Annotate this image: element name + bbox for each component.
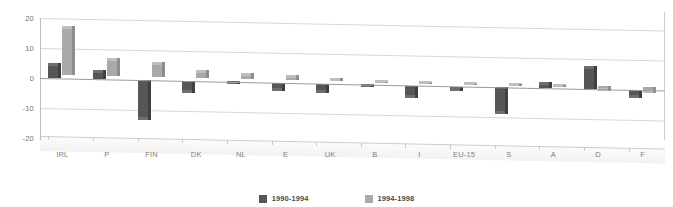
- legend-swatch-1994-1998: [365, 195, 373, 203]
- x-tick-nl: [227, 140, 228, 144]
- x-tick-eu-15: [450, 145, 451, 149]
- x-axis-label-fin: FIN: [145, 150, 158, 159]
- bar-side: [282, 83, 285, 91]
- bar-side: [505, 87, 508, 114]
- y-tick-label--20: -20: [4, 134, 34, 143]
- plot-area: 20100-10-20 IRLPFINDKNLEUKBIEU-15SADF: [0, 0, 673, 170]
- bar-p-1994-1998: [107, 58, 120, 77]
- bar-side: [474, 84, 477, 86]
- bar-i-1990-1994: [405, 86, 418, 99]
- chart-legend: 1990-19941994-1998: [0, 194, 673, 203]
- gridline--10: [40, 108, 665, 122]
- bar-i-1994-1998: [419, 83, 432, 85]
- bar-side: [415, 86, 418, 99]
- bar-side: [58, 63, 61, 78]
- bar-side: [340, 78, 343, 81]
- legend-item[interactable]: 1994-1998: [365, 194, 415, 203]
- bar-irl-1990-1994: [48, 63, 61, 78]
- x-tick-dk: [182, 139, 183, 143]
- x-tick-uk: [316, 142, 317, 146]
- bar-dk-1990-1994: [182, 81, 195, 93]
- bar-uk-1990-1994: [316, 84, 329, 94]
- bar-dk-1994-1998: [196, 70, 209, 78]
- legend-item[interactable]: 1990-1994: [259, 194, 309, 203]
- x-axis-label-irl: IRL: [56, 150, 68, 159]
- chart-floor: [40, 136, 665, 164]
- bar-side: [148, 80, 151, 120]
- bar-side: [251, 73, 254, 79]
- bar-side: [563, 85, 566, 87]
- bar-f-1990-1994: [629, 90, 642, 98]
- x-tick-b: [361, 143, 362, 147]
- bar-side: [385, 82, 388, 84]
- bar-side: [639, 90, 642, 98]
- right-axis-line: [664, 12, 665, 140]
- legend-label: 1990-1994: [272, 194, 309, 203]
- bar-side: [519, 84, 522, 86]
- x-axis-label-eu-15: EU-15: [453, 150, 475, 159]
- x-tick-i: [405, 144, 406, 148]
- bar-side: [117, 58, 120, 77]
- bar-side: [326, 84, 329, 94]
- x-tick-p: [93, 137, 94, 141]
- x-tick-f: [629, 148, 630, 152]
- bar-eu-15-1994-1998: [464, 84, 477, 86]
- x-axis-label-f: F: [640, 150, 645, 159]
- x-axis-label-i: I: [418, 150, 420, 159]
- gridline-10: [40, 48, 665, 62]
- y-tick-label-10: 10: [4, 44, 34, 53]
- bar-nl-1994-1998: [241, 73, 254, 79]
- bar-side: [103, 70, 106, 80]
- bar-fin-1990-1994: [138, 80, 151, 120]
- y-tick-label--10: -10: [4, 104, 34, 113]
- x-tick-e: [272, 141, 273, 145]
- bar-a-1994-1998: [553, 85, 566, 87]
- x-axis-label-d: D: [595, 150, 601, 159]
- legend-label: 1994-1998: [378, 194, 415, 203]
- x-axis-label-b: B: [372, 150, 377, 159]
- bar-b-1994-1998: [375, 82, 388, 84]
- x-axis-label-p: P: [104, 150, 109, 159]
- bar-e-1990-1994: [272, 83, 285, 91]
- x-axis-label-e: E: [283, 150, 288, 159]
- x-tick-d: [584, 147, 585, 151]
- zero-line: [40, 78, 665, 92]
- bar-side: [429, 83, 432, 85]
- x-tick-fin: [138, 138, 139, 142]
- gridline-20: [40, 18, 665, 32]
- x-tick-irl: [48, 136, 49, 140]
- bar-uk-1994-1998: [330, 78, 343, 81]
- x-axis-label-uk: UK: [325, 150, 336, 159]
- x-axis-label-a: A: [551, 150, 556, 159]
- bar-e-1994-1998: [286, 75, 299, 80]
- bar-fin-1994-1998: [152, 62, 165, 77]
- x-tick-a: [539, 146, 540, 150]
- y-tick-label-20: 20: [4, 14, 34, 23]
- bar-p-1990-1994: [93, 70, 106, 80]
- x-tick-s: [495, 145, 496, 149]
- y-tick-label-0: 0: [4, 74, 34, 83]
- bar-side: [192, 81, 195, 93]
- bar-d-1990-1994: [584, 66, 597, 89]
- bar-side: [594, 66, 597, 89]
- x-axis-label-dk: DK: [191, 150, 202, 159]
- bar-side: [72, 26, 75, 76]
- bar-s-1990-1994: [495, 87, 508, 114]
- legend-swatch-1990-1994: [259, 195, 267, 203]
- bar-s-1994-1998: [509, 84, 522, 86]
- bar-side: [162, 62, 165, 77]
- x-axis-label-s: S: [506, 150, 511, 159]
- bar-side: [296, 75, 299, 80]
- bar-chart: 20100-10-20 IRLPFINDKNLEUKBIEU-15SADF 19…: [0, 0, 673, 207]
- bar-side: [206, 70, 209, 78]
- x-axis-label-nl: NL: [236, 150, 246, 159]
- bar-irl-1994-1998: [62, 26, 75, 76]
